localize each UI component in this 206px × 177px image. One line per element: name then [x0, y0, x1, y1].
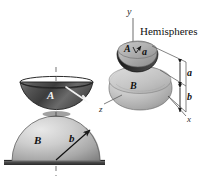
- left-view-label-b: B: [34, 135, 41, 146]
- left-view-radius-label: b: [69, 133, 75, 144]
- right-view-dimension-b-label: b: [187, 92, 192, 102]
- right-view-y-axis-label: y: [127, 7, 131, 17]
- right-view-radius-a-label: a: [142, 47, 147, 57]
- right-view-label-b: B: [130, 81, 137, 91]
- hemispheres-figure: Hemispheres y z x A a B a b A B b: [0, 0, 206, 177]
- hemispheres-caption: Hemispheres: [140, 26, 197, 37]
- left-view-label-a: A: [47, 90, 54, 101]
- right-view-axis-x: [168, 96, 186, 116]
- right-view-x-axis-label: x: [187, 115, 191, 124]
- left-view-hemisphere-b: [12, 116, 100, 161]
- left-view-hemisphere-a: [20, 76, 93, 117]
- right-view-dimension-a-label: a: [187, 68, 192, 78]
- right-view-hemisphere-b: [109, 66, 172, 110]
- right-view-label-a: A: [124, 44, 131, 54]
- right-view-z-axis-label: z: [99, 105, 103, 114]
